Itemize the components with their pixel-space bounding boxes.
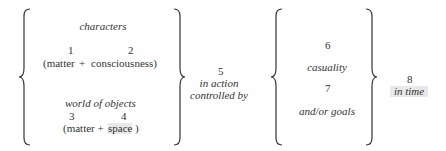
left-brace-icon	[18, 8, 32, 146]
right-group-close-brace-icon	[364, 8, 378, 146]
number-6: 6	[325, 40, 331, 51]
number-7: 7	[325, 83, 331, 94]
matter-label-1: (matter	[43, 58, 75, 69]
number-4: 4	[121, 111, 127, 122]
number-1: 1	[68, 45, 74, 56]
controlled-by-label: controlled by	[189, 90, 249, 101]
in-time-label: in time	[390, 86, 428, 97]
casuality-label: casuality	[305, 62, 349, 73]
close-paren: )	[135, 123, 139, 134]
and-or-goals-label: and/or goals	[296, 106, 358, 117]
left-group-close-brace-icon	[172, 8, 186, 146]
in-action-label: in action	[197, 78, 241, 89]
space-label: space	[108, 123, 132, 134]
number-5: 5	[218, 66, 224, 77]
right-group-open-brace-icon	[270, 8, 284, 146]
consciousness-label: consciousness)	[91, 58, 157, 69]
plus-sign-1: +	[79, 58, 85, 69]
number-2: 2	[128, 45, 134, 56]
characters-label: characters	[76, 21, 130, 32]
world-of-objects-label: world of objects	[65, 98, 136, 109]
matter-label-2: (matter +	[63, 123, 104, 134]
number-3: 3	[69, 111, 75, 122]
number-8: 8	[407, 74, 413, 85]
